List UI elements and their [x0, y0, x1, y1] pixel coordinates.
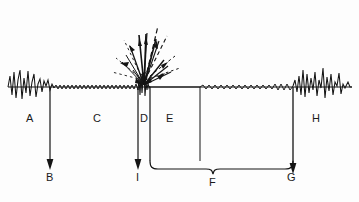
label-d: D [140, 113, 148, 124]
label-i: I [136, 172, 139, 183]
label-e: E [166, 113, 174, 124]
label-h: H [312, 113, 320, 124]
marker-line-b [47, 87, 54, 170]
explosion-burst-icon [112, 26, 180, 85]
waveform-segment-a [8, 70, 54, 99]
waveform-segment-h [293, 68, 352, 98]
label-c: C [93, 113, 101, 124]
seismogram-figure: A B C D E F G H I [0, 0, 359, 202]
label-f: F [209, 177, 216, 188]
waveform-segment-f [200, 84, 293, 90]
label-g: G [287, 172, 296, 183]
label-a: A [26, 113, 34, 124]
label-b: B [46, 172, 54, 183]
curly-brace-icon [150, 161, 293, 174]
marker-line-i [135, 87, 142, 170]
figure-canvas [0, 0, 359, 202]
